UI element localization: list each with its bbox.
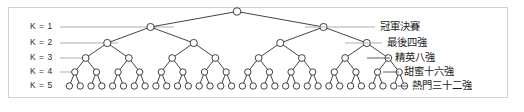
- tree-node-level-5: [174, 83, 180, 89]
- depth-label-k4: K = 4: [30, 66, 53, 76]
- tree-node-level-4: [309, 69, 315, 75]
- tree-node-level-5: [326, 83, 332, 89]
- tree-node-level-3: [169, 55, 176, 62]
- tree-node-level-5: [337, 83, 343, 89]
- tree-edge: [237, 12, 324, 28]
- tree-node-level-5: [131, 83, 137, 89]
- round-label-k2: 最後四強: [387, 36, 427, 48]
- tree-node-level-5: [304, 83, 310, 89]
- tree-node-level-4: [93, 69, 99, 75]
- tree-node-level-5: [142, 83, 148, 89]
- tree-node-level-5: [261, 83, 267, 89]
- tree-node-level-5: [358, 83, 364, 89]
- tree-node-level-5: [272, 83, 278, 89]
- tree-node-level-4: [266, 69, 272, 75]
- tree-node-level-1: [147, 23, 154, 30]
- tree-edge: [324, 27, 367, 43]
- tree-node-level-5: [380, 83, 386, 89]
- tree-node-level-5: [239, 83, 245, 89]
- tree-edge: [151, 12, 238, 28]
- tree-edge: [107, 27, 150, 43]
- round-label-k5: 熱門三十二強: [412, 79, 472, 91]
- tree-node-level-5: [99, 83, 105, 89]
- tree-node-level-4: [201, 69, 207, 75]
- tree-node-level-5: [153, 83, 159, 89]
- tree-node-level-5: [228, 83, 234, 89]
- round-labels-group: 冠軍決賽最後四強精英八強甜蜜十六強熱門三十二強: [380, 20, 472, 91]
- tree-node-level-4: [374, 69, 380, 75]
- tree-node-level-4: [136, 69, 142, 75]
- depth-label-k5: K = 5: [30, 80, 53, 90]
- tree-node-level-4: [245, 69, 251, 75]
- tree-node-level-3: [255, 55, 262, 62]
- tree-node-level-4: [223, 69, 229, 75]
- depth-labels-group: K = 1K = 2K = 3K = 4K = 5: [30, 21, 53, 90]
- tree-node-level-5: [196, 83, 202, 89]
- tree-node-level-2: [104, 39, 111, 46]
- tree-node-level-5: [120, 83, 126, 89]
- tree-node-level-5: [369, 83, 375, 89]
- tree-node-level-5: [218, 83, 224, 89]
- tree-node-level-5: [207, 83, 213, 89]
- tree-node-level-3: [125, 55, 132, 62]
- tree-node-level-5: [164, 83, 170, 89]
- tree-node-level-4: [180, 69, 186, 75]
- depth-label-k3: K = 3: [30, 52, 53, 62]
- tree-node-level-5: [250, 83, 256, 89]
- tree-nodes-group: [66, 8, 408, 90]
- tree-node-level-5: [185, 83, 191, 89]
- tree-node-level-5: [315, 83, 321, 89]
- round-label-k4: 甜蜜十六強: [404, 65, 454, 77]
- tree-node-level-4: [158, 69, 164, 75]
- tree-node-level-5: [66, 83, 72, 89]
- tree-node-level-2: [277, 39, 284, 46]
- tournament-tree-diagram: K = 1K = 2K = 3K = 4K = 5 冠軍決賽最後四強精英八強甜蜜…: [0, 0, 524, 112]
- tree-node-level-5: [293, 83, 299, 89]
- tree-node-level-5: [391, 83, 397, 89]
- depth-label-k2: K = 2: [30, 37, 53, 47]
- tree-node-level-4: [72, 69, 78, 75]
- tree-node-level-3: [82, 55, 89, 62]
- round-label-k3: 精英八強: [395, 51, 435, 63]
- tree-node-level-5: [77, 83, 83, 89]
- tree-node-level-2: [190, 39, 197, 46]
- tree-edge: [280, 27, 323, 43]
- tree-node-level-5: [282, 83, 288, 89]
- tree-node-level-4: [353, 69, 359, 75]
- tree-node-level-5: [109, 83, 115, 89]
- round-label-k1: 冠軍決賽: [380, 20, 420, 32]
- tree-node-level-4: [288, 69, 294, 75]
- tree-node-level-3: [212, 55, 219, 62]
- depth-label-k1: K = 1: [30, 21, 53, 31]
- tree-edge: [151, 27, 194, 43]
- tree-node-level-4: [115, 69, 121, 75]
- tree-node-level-5: [347, 83, 353, 89]
- tree-node-level-3: [298, 55, 305, 62]
- tree-node-level-3: [342, 55, 349, 62]
- tree-node-level-5: [88, 83, 94, 89]
- tree-node-root: [233, 8, 241, 16]
- tree-node-level-4: [331, 69, 337, 75]
